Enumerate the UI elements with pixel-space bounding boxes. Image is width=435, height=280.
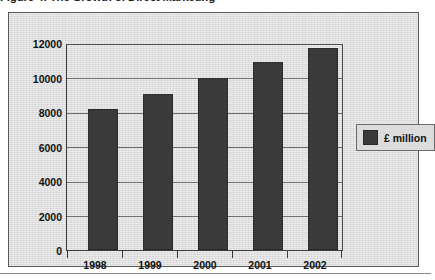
y-axis-tick-label: 12000 <box>16 38 62 50</box>
x-axis-tick <box>341 251 342 258</box>
x-axis-tick <box>122 251 123 258</box>
y-axis-tick-label: 0 <box>16 245 62 257</box>
bar-2000 <box>198 78 228 251</box>
x-axis-label-2000: 2000 <box>177 259 233 271</box>
x-axis-label-1999: 1999 <box>122 259 178 271</box>
legend-entry-label: £ million <box>384 132 427 144</box>
bar-2002 <box>308 48 338 251</box>
y-axis: 12000 10000 8000 6000 4000 2000 0 <box>12 44 62 251</box>
x-axis-tick <box>287 251 288 258</box>
x-axis-ticks <box>67 251 342 258</box>
x-axis-label-2001: 2001 <box>232 259 288 271</box>
x-axis-label-2002: 2002 <box>287 259 343 271</box>
y-axis-tick-label: 2000 <box>16 211 62 223</box>
legend-color-swatch <box>363 130 378 145</box>
figure-caption: Figure 4: The Growth of Direct Marketing <box>0 0 431 5</box>
bar-1999 <box>143 94 173 250</box>
x-axis: 1998 1999 2000 2001 2002 <box>67 259 342 273</box>
x-axis-label-1998: 1998 <box>67 259 123 271</box>
y-axis-tick-label: 10000 <box>16 73 62 85</box>
chart-legend: £ million <box>356 124 435 151</box>
x-axis-tick <box>67 251 68 258</box>
x-axis-tick <box>177 251 178 258</box>
page-divider-rule <box>0 273 431 274</box>
y-axis-tick-label: 8000 <box>16 107 62 119</box>
y-axis-tick-label: 4000 <box>16 176 62 188</box>
chart-container: 12000 10000 8000 6000 4000 2000 0 1998 1… <box>8 12 419 267</box>
y-axis-tick-label: 6000 <box>16 142 62 154</box>
bar-2001 <box>253 62 283 250</box>
bar-series <box>67 44 342 250</box>
bar-1998 <box>88 109 118 251</box>
x-axis-tick <box>232 251 233 258</box>
